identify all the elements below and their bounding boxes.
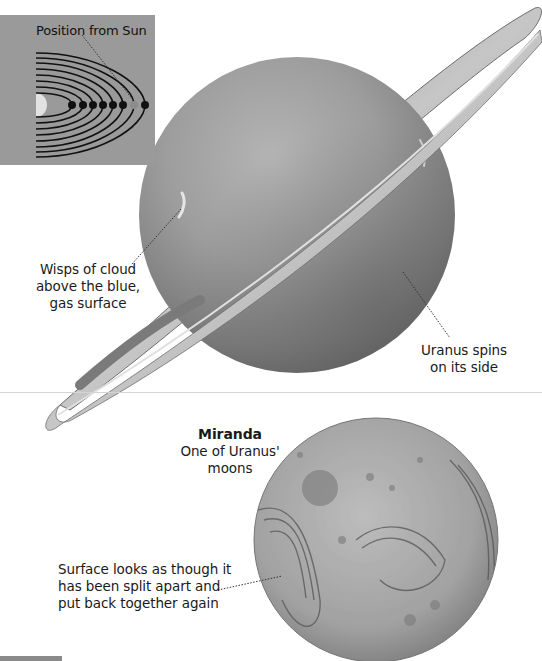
inset-title: Position from Sun — [36, 23, 146, 38]
spins-label-line: on its side — [404, 359, 524, 376]
miranda-subtitle: One of Uranus' moons — [160, 443, 300, 477]
footer-bar — [0, 656, 62, 661]
section-divider — [0, 392, 542, 393]
miranda-subtitle-line: moons — [160, 460, 300, 477]
spins-label-line: Uranus spins — [404, 342, 524, 359]
surface-label-line: put back together again — [58, 595, 218, 612]
uranus-position-marker — [130, 101, 138, 109]
surface-label-line: has been split apart and — [58, 578, 218, 595]
miranda-subtitle-line: One of Uranus' — [160, 443, 300, 460]
sun-icon — [36, 93, 47, 117]
surface-label-line: Surface looks as though it — [58, 561, 218, 578]
clouds-label-line: gas surface — [14, 295, 162, 312]
miranda-title: Miranda — [160, 426, 300, 443]
spins-label: Uranus spins on its side — [404, 342, 524, 376]
clouds-label: Wisps of cloud above the blue, gas surfa… — [14, 261, 162, 312]
clouds-label-line: Wisps of cloud — [14, 261, 162, 278]
clouds-label-line: above the blue, — [14, 278, 162, 295]
surface-label: Surface looks as though it has been spli… — [58, 561, 218, 612]
uranus-planet — [139, 57, 455, 373]
